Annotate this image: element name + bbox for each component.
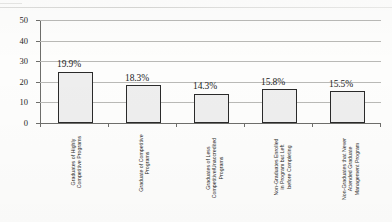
bar-1 [58, 72, 93, 124]
category-label-1: Graduates of Highly Competitive Programs [70, 127, 83, 197]
category-label-3-line-3: Programs [218, 127, 224, 209]
category-label-4: Non-Graduates Enrolled in Program but Le… [273, 127, 292, 207]
x-axis-category-labels: Graduates of Highly Competitive Programs… [41, 127, 381, 222]
y-tick-mark [36, 20, 40, 21]
x-tick-mark [176, 123, 177, 127]
y-tick-mark [36, 41, 40, 42]
bar-series: 19.9% 18.3% 14.3% 15.8% 15.5% [41, 20, 381, 123]
bar-3 [194, 94, 229, 124]
category-label-2-line-2: Programs [144, 127, 150, 199]
x-tick-mark [244, 123, 245, 127]
category-label-4-line-3: before Completing [286, 127, 292, 207]
category-label-5: Non-Graduates that Never Attended Gradua… [341, 127, 360, 211]
bar-group-1 [58, 20, 93, 123]
x-tick-mark [108, 123, 109, 127]
bar-group-3 [194, 20, 229, 123]
y-tick-mark [36, 102, 40, 103]
y-tick-label: 40 [20, 36, 29, 45]
bar-label-3: 14.3% [193, 81, 217, 91]
category-label-5-line-3: Management Program [354, 127, 360, 211]
y-tick-label: 50 [20, 16, 29, 25]
bar-group-5 [330, 20, 365, 123]
x-tick-mark [312, 123, 313, 127]
bar-group-2 [126, 20, 161, 123]
bar-group-4 [262, 20, 297, 123]
y-tick-mark [36, 61, 40, 62]
bar-label-2: 18.3% [125, 73, 149, 83]
bar-2 [126, 85, 161, 123]
category-label-3-line-2: Competitive/Unaccredited [211, 127, 217, 209]
y-tick-label: 10 [20, 98, 29, 107]
category-label-1-line-2: Competitive Programs [76, 127, 82, 197]
y-axis-labels: 50 40 30 20 10 0 [0, 20, 34, 123]
bar-label-4: 15.8% [261, 77, 285, 87]
bar-label-5: 15.5% [329, 79, 353, 89]
x-tick-mark [380, 123, 381, 127]
x-tick-mark [40, 123, 41, 127]
bar-label-1: 19.9% [57, 59, 81, 69]
bar-5 [330, 91, 365, 123]
y-tick-label: 30 [20, 57, 29, 66]
scan-artifact-mark [0, 3, 22, 4]
scan-artifact-line [0, 7, 392, 8]
y-tick-label: 0 [24, 119, 28, 128]
bar-chart: 50 40 30 20 10 0 19.9% [0, 0, 392, 222]
category-label-2: Graduate of Competitive Programs [138, 127, 151, 199]
y-tick-mark [36, 82, 40, 83]
bar-4 [262, 89, 297, 123]
y-tick-label: 20 [20, 78, 29, 87]
category-label-3: Graduates of Less Competitive/Unaccredit… [205, 127, 224, 209]
